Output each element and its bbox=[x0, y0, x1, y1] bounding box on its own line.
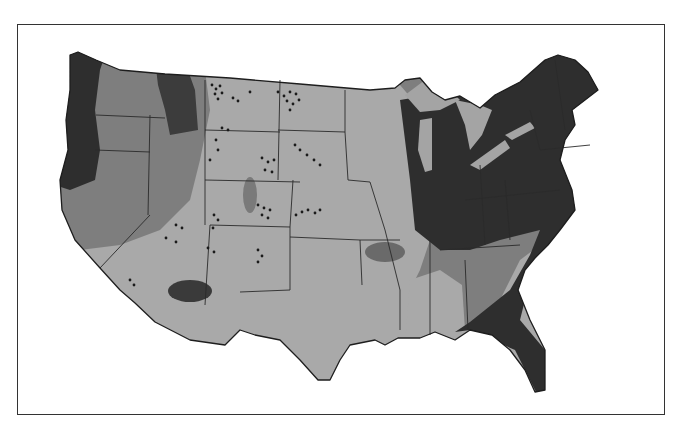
shading-layers bbox=[40, 40, 640, 410]
class-dark-ozarks-spot bbox=[365, 242, 405, 262]
class-lightest-alabama bbox=[405, 270, 465, 345]
us-choropleth-map bbox=[0, 0, 686, 431]
class-medium-colorado-spot bbox=[243, 177, 257, 213]
